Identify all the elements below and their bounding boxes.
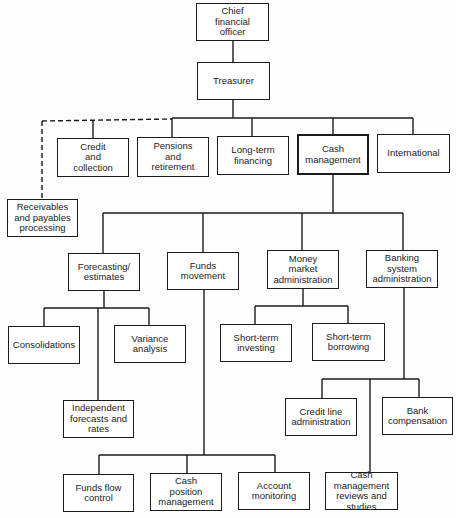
node-banking-system-administration: Banking system administration (366, 250, 438, 288)
node-cash-management-reviews-and-studies: Cash management reviews and studies (325, 472, 398, 510)
node-bank-compensation: Bank compensation (382, 397, 453, 435)
node-international: International (377, 134, 450, 173)
node-consolidations: Consolidations (8, 326, 80, 364)
node-credit-line-administration: Credit line administration (285, 398, 357, 436)
node-independent-forecasts-and-rates: Independent forecasts and rates (63, 400, 134, 438)
org-chart: Chief financial officer Treasurer Credit… (0, 0, 456, 518)
node-forecasting-estimates: Forecasting/ estimates (68, 253, 140, 291)
node-account-monitoring: Account monitoring (238, 472, 310, 510)
node-long-term-financing: Long-term financing (217, 136, 289, 175)
node-receivables-and-payables-processing: Receivables and payables processing (7, 199, 78, 237)
node-funds-flow-control: Funds flow control (63, 474, 134, 512)
node-short-term-investing: Short-term investing (220, 324, 292, 362)
node-funds-movement: Funds movement (167, 252, 239, 290)
node-variance-analysis: Variance analysis (114, 325, 186, 363)
node-credit-and-collection: Credit and collection (57, 138, 129, 177)
node-money-market-administration: Money market administration (267, 250, 339, 289)
node-cash-position-management: Cash position management (150, 473, 222, 511)
node-short-term-borrowing: Short-term borrowing (312, 323, 385, 361)
node-chief-financial-officer: Chief financial officer (196, 3, 269, 41)
node-treasurer: Treasurer (197, 62, 270, 100)
node-pensions-and-retirement: Pensions and retirement (137, 137, 209, 177)
node-cash-management: Cash management (297, 134, 369, 175)
